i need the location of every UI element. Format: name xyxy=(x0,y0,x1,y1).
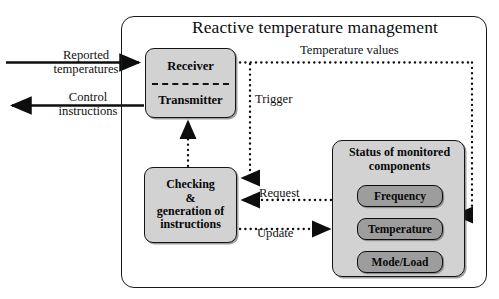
status-panel-title: Status of monitored components xyxy=(333,146,466,174)
reported-line-2: temperatures xyxy=(34,62,138,76)
edge-label-reported-temperatures: Reported temperatures xyxy=(34,48,138,76)
receiver-transmitter-block[interactable]: Receiver Transmitter xyxy=(145,48,236,118)
receiver-label: Receiver xyxy=(146,49,235,83)
monitored-item-temperature[interactable]: Temperature xyxy=(357,218,443,240)
checking-generation-block[interactable]: Checking & generation of instructions xyxy=(144,167,237,243)
edge-label-trigger: Trigger xyxy=(255,92,292,107)
edge-label-update: Update xyxy=(257,226,293,241)
status-panel-title-line-1: Status of monitored xyxy=(333,146,466,160)
checking-line-1: Checking xyxy=(166,178,215,191)
checking-line-3: generation of xyxy=(157,205,225,218)
receiver-transmitter-divider xyxy=(152,83,229,85)
transmitter-label: Transmitter xyxy=(146,83,235,117)
diagram-title: Reactive temperature management xyxy=(150,18,480,36)
status-panel-title-line-2: components xyxy=(333,160,466,174)
checking-line-2: & xyxy=(186,192,196,205)
reported-line-1: Reported xyxy=(34,48,138,62)
status-of-monitored-components-panel[interactable]: Status of monitored components Frequency… xyxy=(332,140,465,277)
diagram-canvas: Reactive temperature management Receiver… xyxy=(0,0,499,299)
edge-label-temperature-values: Temperature values xyxy=(300,43,399,58)
control-line-1: Control xyxy=(38,90,138,104)
edge-label-request: Request xyxy=(259,186,300,201)
checking-line-4: instructions xyxy=(160,218,221,231)
monitored-item-frequency[interactable]: Frequency xyxy=(357,185,443,207)
cropped-text-sliver xyxy=(74,0,314,4)
edge-label-control-instructions: Control instructions xyxy=(38,90,138,118)
control-line-2: instructions xyxy=(38,104,138,118)
monitored-item-mode-load[interactable]: Mode/Load xyxy=(357,251,443,273)
